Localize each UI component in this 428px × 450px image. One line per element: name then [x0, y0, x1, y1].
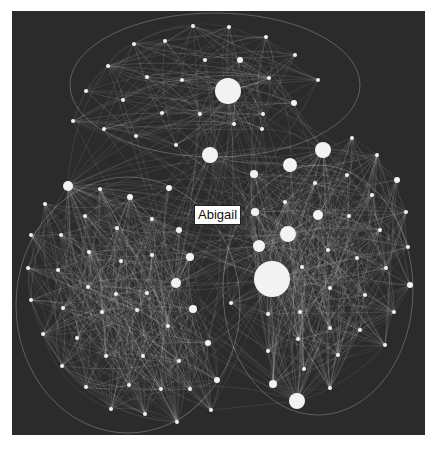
- graph-node[interactable]: [106, 64, 110, 68]
- graph-node[interactable]: [121, 98, 125, 102]
- graph-node[interactable]: [143, 412, 147, 416]
- graph-node[interactable]: [315, 142, 331, 158]
- graph-node[interactable]: [98, 187, 102, 191]
- graph-node[interactable]: [289, 393, 305, 409]
- graph-node[interactable]: [266, 349, 270, 353]
- graph-node[interactable]: [83, 214, 87, 218]
- graph-node[interactable]: [394, 177, 400, 183]
- graph-node[interactable]: [237, 57, 243, 63]
- graph-node[interactable]: [370, 193, 374, 197]
- node-label-abigail[interactable]: Abigail: [194, 205, 241, 225]
- graph-node[interactable]: [363, 293, 367, 297]
- graph-node[interactable]: [160, 111, 164, 115]
- graph-node[interactable]: [215, 78, 241, 104]
- graph-node[interactable]: [407, 282, 413, 288]
- graph-node[interactable]: [205, 340, 211, 346]
- graph-node[interactable]: [186, 253, 194, 261]
- graph-node[interactable]: [296, 337, 300, 341]
- graph-node[interactable]: [283, 158, 297, 172]
- graph-node[interactable]: [61, 306, 65, 310]
- graph-node[interactable]: [313, 181, 317, 185]
- graph-node[interactable]: [328, 386, 332, 390]
- graph-node[interactable]: [29, 233, 33, 237]
- graph-node[interactable]: [198, 112, 202, 116]
- graph-node[interactable]: [132, 42, 136, 46]
- graph-node[interactable]: [378, 228, 382, 232]
- graph-node[interactable]: [298, 310, 302, 314]
- graph-node[interactable]: [328, 286, 332, 290]
- graph-node[interactable]: [302, 367, 306, 371]
- graph-node[interactable]: [269, 380, 277, 388]
- graph-node[interactable]: [384, 266, 388, 270]
- graph-node[interactable]: [214, 377, 220, 383]
- graph-node[interactable]: [350, 136, 354, 140]
- graph-node[interactable]: [260, 127, 264, 131]
- graph-node[interactable]: [261, 112, 265, 116]
- graph-node[interactable]: [26, 266, 30, 270]
- graph-node[interactable]: [119, 259, 123, 263]
- graph-node[interactable]: [253, 240, 265, 252]
- graph-node[interactable]: [202, 147, 218, 163]
- graph-node[interactable]: [75, 336, 79, 340]
- graph-node[interactable]: [283, 200, 287, 204]
- graph-node[interactable]: [59, 233, 63, 237]
- graph-node[interactable]: [102, 127, 106, 131]
- graph-node[interactable]: [86, 285, 90, 289]
- graph-node[interactable]: [251, 208, 259, 216]
- graph-node[interactable]: [177, 359, 181, 363]
- graph-node[interactable]: [232, 122, 236, 126]
- graph-node[interactable]: [127, 383, 131, 387]
- graph-node[interactable]: [109, 407, 113, 411]
- graph-node[interactable]: [336, 353, 340, 357]
- graph-node[interactable]: [127, 194, 133, 200]
- graph-node[interactable]: [56, 268, 60, 272]
- graph-node[interactable]: [406, 245, 410, 249]
- graph-node[interactable]: [104, 354, 108, 358]
- graph-node[interactable]: [189, 305, 197, 313]
- graph-node[interactable]: [191, 24, 195, 28]
- graph-node[interactable]: [150, 253, 154, 257]
- graph-node[interactable]: [254, 261, 290, 297]
- graph-node[interactable]: [175, 420, 179, 424]
- graph-node[interactable]: [100, 310, 104, 314]
- graph-node[interactable]: [227, 25, 231, 29]
- graph-node[interactable]: [345, 173, 349, 177]
- graph-node[interactable]: [358, 328, 362, 332]
- graph-node[interactable]: [229, 301, 233, 305]
- graph-node[interactable]: [141, 354, 145, 358]
- graph-node[interactable]: [326, 248, 330, 252]
- graph-node[interactable]: [404, 210, 408, 214]
- graph-node[interactable]: [84, 89, 88, 93]
- graph-node[interactable]: [375, 153, 379, 157]
- graph-node[interactable]: [280, 226, 296, 242]
- graph-node[interactable]: [43, 202, 47, 206]
- graph-node[interactable]: [188, 387, 192, 391]
- graph-node[interactable]: [355, 256, 359, 260]
- graph-node[interactable]: [159, 387, 163, 391]
- graph-node[interactable]: [347, 214, 351, 218]
- graph-node[interactable]: [84, 385, 88, 389]
- graph-node[interactable]: [145, 75, 149, 79]
- graph-node[interactable]: [176, 227, 182, 233]
- graph-node[interactable]: [264, 35, 268, 39]
- graph-node[interactable]: [392, 310, 396, 314]
- graph-node[interactable]: [267, 76, 271, 80]
- graph-node[interactable]: [115, 226, 119, 230]
- graph-node[interactable]: [71, 119, 75, 123]
- graph-node[interactable]: [203, 58, 207, 62]
- graph-node[interactable]: [171, 278, 181, 288]
- graph-node[interactable]: [41, 332, 45, 336]
- graph-node[interactable]: [316, 78, 320, 82]
- graph-node[interactable]: [180, 78, 184, 82]
- graph-node[interactable]: [166, 185, 172, 191]
- graph-node[interactable]: [313, 210, 323, 220]
- graph-node[interactable]: [174, 143, 178, 147]
- graph-node[interactable]: [209, 408, 213, 412]
- graph-node[interactable]: [300, 265, 304, 269]
- graph-node[interactable]: [383, 343, 387, 347]
- graph-node[interactable]: [293, 53, 297, 57]
- graph-node[interactable]: [163, 39, 167, 43]
- graph-node[interactable]: [134, 134, 138, 138]
- graph-node[interactable]: [87, 250, 91, 254]
- graph-node[interactable]: [60, 364, 64, 368]
